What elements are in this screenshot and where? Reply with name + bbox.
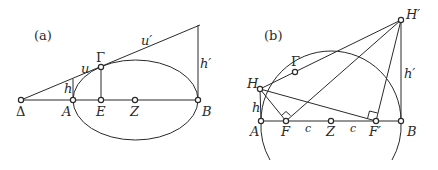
panel-b-caption: (b) xyxy=(264,28,282,43)
label-a: A xyxy=(61,104,71,119)
label-h-point: H xyxy=(246,76,259,91)
point-a xyxy=(70,97,75,102)
point-f xyxy=(283,118,288,123)
point-b xyxy=(398,118,403,123)
right-angle-marker-f xyxy=(282,112,291,116)
point-gamma xyxy=(98,64,103,69)
panel-a: (a) Δ A E Z B Γ h u u′ h′ xyxy=(16,25,212,140)
right-angle-marker-f-prime xyxy=(368,111,378,119)
label-f-prime: F′ xyxy=(368,124,381,139)
panel-b: (b) H Γ H′ A F Z xyxy=(246,7,420,160)
point-a xyxy=(258,118,263,123)
point-e xyxy=(98,97,103,102)
point-z xyxy=(328,118,333,123)
label-u-prime: u′ xyxy=(141,33,152,48)
label-z: Z xyxy=(129,104,140,119)
label-c-right: c xyxy=(350,122,356,135)
point-f-prime xyxy=(373,118,378,123)
point-gamma xyxy=(292,69,297,74)
label-u: u xyxy=(81,61,89,76)
diagram-canvas: (a) Δ A E Z B Γ h u u′ h′ (b) xyxy=(0,0,438,170)
point-delta xyxy=(18,97,23,102)
panel-a-caption: (a) xyxy=(34,28,52,43)
label-e: E xyxy=(95,104,106,119)
label-h-prime: h′ xyxy=(200,56,211,71)
label-gamma: Γ xyxy=(96,50,105,65)
label-h: h xyxy=(64,81,72,96)
label-gamma: Γ xyxy=(291,54,300,69)
segment-f-h-prime xyxy=(286,20,401,121)
label-b: B xyxy=(201,104,212,119)
segment-h-f xyxy=(260,89,286,121)
label-b: B xyxy=(406,124,417,139)
label-h-prime-point: H′ xyxy=(405,7,420,22)
label-a: A xyxy=(249,124,259,139)
label-f: F xyxy=(280,124,291,139)
segment-h-f-prime xyxy=(260,89,376,121)
label-c-left: c xyxy=(305,122,311,135)
label-z: Z xyxy=(325,124,336,139)
label-h-segment: h xyxy=(252,100,260,115)
label-h-prime-segment: h′ xyxy=(404,66,415,81)
point-h-prime xyxy=(398,17,403,22)
point-b xyxy=(195,97,200,102)
label-delta: Δ xyxy=(16,104,25,119)
point-z xyxy=(132,97,137,102)
